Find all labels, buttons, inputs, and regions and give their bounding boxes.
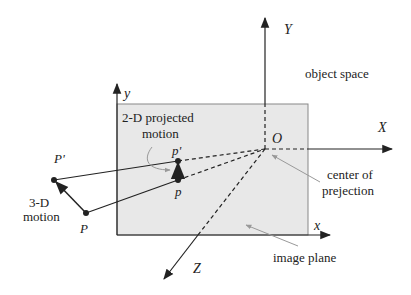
label-3d-motion-1: 3-D [29, 195, 49, 210]
label-image-plane: image plane [273, 250, 336, 265]
label-world-X: X [377, 120, 387, 135]
label-center-1: center of [327, 167, 374, 182]
point-P-prime [51, 177, 57, 183]
label-world-Y: Y [284, 22, 294, 37]
label-3d-motion-2: motion [23, 209, 60, 224]
label-p: p [174, 184, 182, 199]
label-image-x: x [313, 218, 321, 233]
label-P: P [79, 221, 88, 236]
motion-3d-arrow [56, 182, 86, 213]
label-projected-motion-2: motion [142, 126, 179, 141]
label-world-Z: Z [193, 261, 201, 276]
point-p [175, 177, 181, 183]
label-projected-motion-1: 2-D projected [122, 110, 194, 125]
label-p-prime: p' [171, 143, 182, 158]
label-object-space: object space [305, 66, 369, 81]
projection-diagram: Y X Z O y x object space 2-D projected m… [0, 0, 411, 295]
label-origin-O: O [272, 131, 282, 146]
point-p-prime [175, 158, 181, 164]
label-P-prime: P' [53, 151, 65, 166]
point-P [83, 210, 89, 216]
label-image-y: y [122, 86, 131, 101]
label-center-2: prejection [322, 183, 374, 198]
